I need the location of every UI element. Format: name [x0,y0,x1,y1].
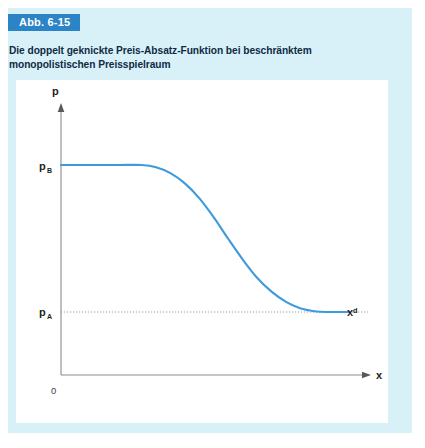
plot-area: p x p B p A 0 xᵈ [16,80,388,423]
y-axis-arrow-icon [58,103,65,112]
x-axis-arrow-icon [362,372,371,379]
figure-caption: Die doppelt geknickte Preis-Absatz-Funkt… [9,44,393,71]
figure-root: Abb. 6-15 Die doppelt geknickte Preis-Ab… [0,0,425,448]
demand-curve-path [61,165,349,312]
demand-curve-chart: p x p B p A 0 xᵈ [16,80,388,423]
y-tick-sublabel-pa: A [47,313,52,320]
y-tick-sublabel-pb: B [47,167,52,174]
y-tick-label-pa: p [39,306,46,318]
y-axis-label: p [52,85,59,97]
figure-number-badge: Abb. 6-15 [8,14,80,31]
x-axis-label: x [376,369,383,381]
curve-label-xd: xᵈ [347,306,358,318]
origin-label: 0 [51,385,56,396]
y-tick-label-pb: p [39,160,46,172]
